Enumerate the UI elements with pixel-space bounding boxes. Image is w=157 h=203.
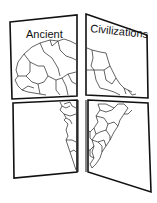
panel-top-right: Civilizations — [86, 14, 149, 98]
panel-top-left: Ancient — [10, 15, 77, 99]
fold-lines — [78, 100, 86, 172]
title-word-ancient: Ancient — [26, 28, 63, 40]
foldable-booklet-illustration: Ancient Civilizations — [0, 0, 157, 203]
panel-bottom-left — [13, 100, 77, 178]
panel-bottom-right — [88, 100, 151, 192]
booklet-drawing: Ancient Civilizations — [0, 0, 157, 203]
